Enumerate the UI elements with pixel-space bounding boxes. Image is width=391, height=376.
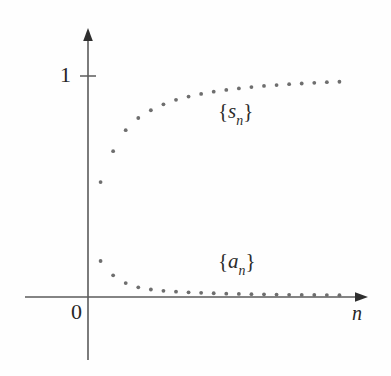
data-point [99, 259, 103, 263]
x-axis-label-n: n [352, 303, 362, 323]
data-point [338, 293, 342, 297]
data-point [136, 285, 140, 289]
data-point [162, 102, 166, 106]
data-point [199, 92, 203, 96]
data-point [174, 290, 178, 294]
data-point [237, 292, 241, 296]
data-point [300, 82, 304, 86]
brace-open-sn: { [218, 99, 228, 123]
data-point [111, 149, 115, 153]
brace-close-an: } [246, 249, 256, 273]
data-point [224, 88, 228, 92]
x-axis-arrow-icon [355, 292, 368, 302]
data-point [287, 82, 291, 86]
data-point [199, 291, 203, 295]
data-point [338, 80, 342, 84]
data-point [312, 293, 316, 297]
data-point [99, 180, 103, 184]
data-point [224, 292, 228, 296]
origin-label: 0 [71, 301, 82, 323]
y-axis-tick-label-1: 1 [60, 64, 71, 86]
data-point [250, 85, 254, 89]
data-point [325, 293, 329, 297]
brace-open-an: { [218, 249, 228, 273]
data-point [212, 291, 216, 295]
data-point [162, 289, 166, 293]
data-point [250, 292, 254, 296]
data-point [212, 90, 216, 94]
brace-close-sn: } [243, 99, 253, 123]
data-point [149, 108, 153, 112]
subscript-n-sn: n [236, 113, 243, 128]
data-point [325, 80, 329, 84]
data-point [275, 293, 279, 297]
data-point [312, 81, 316, 85]
data-point [262, 292, 266, 296]
figure-canvas: 1 0 n {sn} {an} [0, 0, 391, 376]
subscript-n-an: n [239, 263, 246, 278]
data-point [187, 290, 191, 294]
data-point [124, 281, 128, 285]
data-point [111, 273, 115, 277]
data-point [262, 84, 266, 88]
y-axis-arrow-icon [83, 28, 93, 41]
plot-area [0, 0, 391, 376]
data-point [174, 98, 178, 102]
data-point [275, 83, 279, 87]
data-point [237, 86, 241, 90]
series-label-an: {an} [218, 251, 256, 276]
data-point [124, 128, 128, 132]
series-points-sn [99, 80, 342, 184]
data-point [136, 116, 140, 120]
data-point [187, 95, 191, 99]
symbol-a: a [228, 249, 239, 273]
series-label-sn: {sn} [218, 101, 253, 126]
data-point [149, 288, 153, 292]
data-point [300, 293, 304, 297]
data-point [287, 293, 291, 297]
